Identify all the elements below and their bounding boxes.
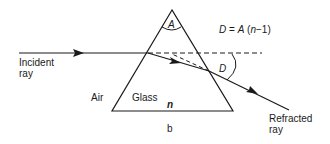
prism-diagram: A D = A (n−1) D Incident ray Air Glass n… <box>0 0 330 144</box>
ray-in-glass-arrowhead <box>169 57 181 64</box>
glass-label: Glass <box>132 92 158 103</box>
incident-ray-label-line1: Incident <box>19 57 54 68</box>
refracted-ray-label-line2: ray <box>269 124 283 135</box>
air-label: Air <box>91 92 104 103</box>
formula-label: D = A (n−1) <box>219 24 271 35</box>
caption-label: b <box>167 123 173 134</box>
incident-ray-label-line2: ray <box>19 68 33 79</box>
deviation-angle-arc <box>227 54 236 80</box>
refracted-ray-label-line1: Refracted <box>269 113 312 124</box>
refractive-index-label: n <box>167 99 173 110</box>
apex-angle-label: A <box>167 19 175 30</box>
deviation-angle-label: D <box>219 63 226 74</box>
